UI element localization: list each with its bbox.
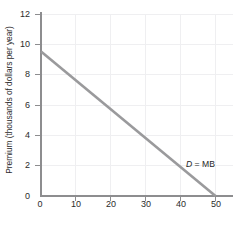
demand-curve	[0, 0, 239, 237]
demand-symbol: D	[186, 159, 192, 169]
marginal-benefit-symbol: MB	[202, 159, 215, 169]
demand-curve-label: D = MB	[186, 159, 215, 169]
equals-sign: =	[195, 159, 200, 169]
chart-figure: Premium (thousands of dollars per year) …	[0, 0, 239, 237]
